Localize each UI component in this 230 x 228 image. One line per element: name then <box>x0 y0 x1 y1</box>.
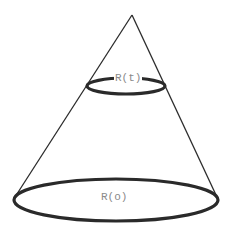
cone-right-edge <box>132 15 216 195</box>
base-circle-label: R(o) <box>101 192 127 203</box>
cone-left-edge <box>15 15 132 197</box>
top-circle-label: R(t) <box>114 73 142 84</box>
